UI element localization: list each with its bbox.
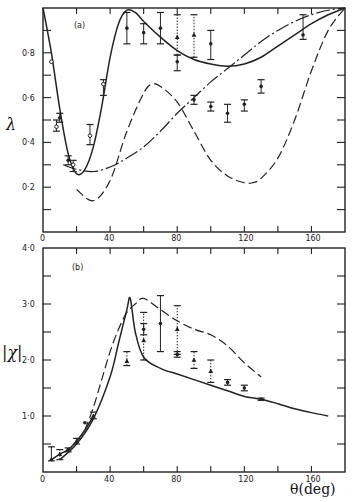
- solid-curve: [60, 297, 328, 459]
- x-tick-label: 120: [238, 475, 253, 484]
- panel-a-ticks: 040801201600·20·40·60·8: [22, 8, 345, 243]
- data-point: [123, 12, 130, 43]
- y-tick-label: 4·0: [22, 244, 35, 253]
- panel-a-label: (a): [74, 21, 85, 30]
- data-point: [140, 24, 147, 44]
- figure: 040801201600·20·40·60·8 (a) λ 0408012016…: [0, 0, 354, 502]
- data-point: [191, 15, 198, 58]
- data-point: [241, 385, 248, 391]
- data-point: [48, 447, 55, 462]
- x-tick-label: 40: [104, 234, 114, 243]
- y-tick-label: 0·4: [22, 138, 35, 147]
- y-tick-label: 0·8: [22, 49, 35, 58]
- data-point: [50, 60, 54, 64]
- y-tick-label: 1·0: [22, 412, 35, 421]
- data-point: [86, 124, 93, 144]
- data-point: [174, 306, 181, 355]
- y-tick-label: 3·0: [22, 300, 35, 309]
- y-axis-label-lambda: λ: [5, 115, 16, 134]
- panel-b-chi: 040801201601·02·03·04·0 (b) |χ| θ(deg): [2, 244, 345, 497]
- x-tick-label: 40: [104, 475, 114, 484]
- x-tick-label: 80: [171, 234, 181, 243]
- data-point: [241, 100, 248, 111]
- data-point: [224, 380, 231, 386]
- y-tick-label: 2·0: [22, 356, 35, 365]
- x-axis-label-theta: θ(deg): [290, 481, 336, 497]
- data-point: [83, 421, 87, 425]
- data-point: [258, 80, 265, 93]
- x-tick-label: 160: [305, 234, 320, 243]
- data-point: [157, 296, 164, 352]
- x-tick-label: 80: [171, 475, 181, 484]
- data-point: [207, 30, 214, 59]
- dashed-curve: [85, 298, 261, 430]
- data-point: [207, 360, 214, 382]
- data-point: [140, 324, 147, 335]
- panel-b-label: (b): [72, 263, 83, 272]
- data-point: [207, 102, 214, 111]
- x-tick-label: 0: [40, 234, 45, 243]
- panel-a-lambda: 040801201600·20·40·60·8 (a) λ: [5, 8, 345, 243]
- fit-line: [51, 416, 93, 460]
- data-point: [224, 104, 231, 122]
- x-tick-label: 120: [238, 234, 253, 243]
- data-point: [174, 55, 181, 71]
- y-tick-label: 0·6: [22, 94, 35, 103]
- panel-b-curves: [51, 297, 328, 459]
- y-axis-label-chi: |χ|: [2, 343, 22, 362]
- data-point: [123, 352, 130, 366]
- data-point: [191, 352, 198, 369]
- x-tick-label: 0: [40, 475, 45, 484]
- y-tick-label: 0·2: [22, 183, 35, 192]
